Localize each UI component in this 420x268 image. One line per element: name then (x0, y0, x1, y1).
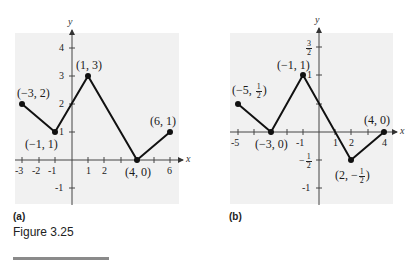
graph-b-xtick: 1 (333, 138, 338, 148)
graph-a-ytick: 3 (59, 71, 64, 81)
graph-a-xtick: -1 (48, 166, 56, 176)
fraction: 12 (256, 83, 262, 100)
graph-a-xtick: -2 (32, 166, 40, 176)
graph-a-ytick: 1 (59, 127, 64, 137)
graph-b-xtick: 2 (349, 138, 354, 148)
graph-a-xtick: 6 (167, 166, 172, 176)
graph-b-x-axis-label: x (400, 126, 404, 136)
figure-caption: Figure 3.25 (13, 226, 74, 238)
graph-b-xtick: -5 (231, 138, 239, 148)
graph-b-ytick: -1 (302, 183, 310, 193)
graph-a-point-label: (6, 1) (150, 115, 176, 127)
caption-rule (13, 257, 109, 260)
graph-a-xtick: 1 (86, 166, 91, 176)
frac-den: 2 (257, 92, 261, 100)
graph-a-point-label: (−1, 1) (25, 138, 58, 150)
graph-a-point-label: (1, 3) (76, 59, 102, 71)
graph-b-point-label: (−1, 1) (277, 59, 310, 71)
graph-b-point-label: (−5, 12) (232, 83, 267, 100)
graph-b-xtick: -1 (296, 138, 304, 148)
graph-b-point-label: (4, 0) (364, 114, 390, 126)
graph-a-point-label: (−3, 2) (17, 87, 50, 99)
frac-den: 2 (360, 177, 364, 185)
graph-b-point-label: (−3, 0) (255, 138, 288, 150)
graph-a-x-axis-label: x (186, 154, 190, 164)
panel-b-label: (b) (229, 212, 242, 222)
graph-a-ytick: 4 (59, 43, 64, 53)
graph-b-point-label: (2, −12) (335, 168, 370, 185)
graph-a-point-label: (4, 0) (125, 166, 151, 178)
label-prefix: (−5, (232, 83, 255, 97)
graph-a-ytick: 2 (59, 99, 64, 109)
label-suffix: ) (366, 168, 370, 182)
graph-b-xtick: 4 (382, 138, 387, 148)
graph-a-ytick: -1 (55, 183, 63, 193)
graph-a-xtick: -3 (15, 166, 23, 176)
panel-a-label: (a) (13, 212, 25, 222)
graph-b-y-axis-label: y (315, 15, 319, 25)
fraction: 12 (359, 168, 365, 185)
label-prefix: (2, − (335, 168, 358, 182)
graph-a-xtick: 2 (102, 166, 107, 176)
label-suffix: ) (263, 83, 267, 97)
graph-a-y-axis-label: y (68, 17, 72, 27)
graph-b-ytick-3-2: 32 (305, 40, 313, 57)
graph-b-ytick-neg-1-2: −12 (299, 153, 313, 170)
